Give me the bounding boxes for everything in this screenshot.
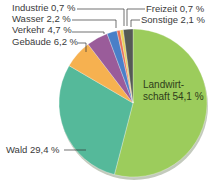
label-gebaeude: Gebäude 6,2 % [12,36,78,47]
label-landwirtschaft-line2: schaft 54,1 % [143,91,204,103]
label-freizeit: Freizeit 0,7 % [146,3,204,14]
leader-wasser [72,20,116,28]
pie-slices [59,29,208,180]
label-wasser: Wasser 2,2 % [12,13,71,24]
leader-industrie [77,9,124,26]
label-landwirtschaft-line1: Landwirt- [143,79,184,91]
leader-verkehr [72,32,104,34]
label-wald: Wald 29,4 % [6,144,60,155]
label-sonstige: Sonstige 2,1 % [141,14,205,25]
label-industrie: Industrie 0,7 % [12,2,75,13]
leader-sonstige [131,20,140,27]
label-verkehr: Verkehr 4,7 % [12,24,72,35]
